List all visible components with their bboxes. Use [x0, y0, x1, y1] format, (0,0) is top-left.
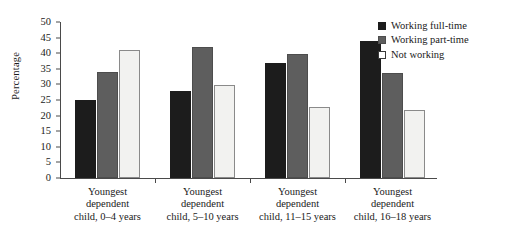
x-axis-label: Youngestdependentchild, 0–4 years	[53, 186, 162, 223]
x-axis-label: Youngestdependentchild, 5–10 years	[148, 186, 257, 223]
x-axis-label-line: dependent	[338, 198, 447, 210]
y-tick-label: 5	[0, 157, 51, 168]
x-axis-label-line: child, 5–10 years	[148, 211, 257, 223]
y-tick-label: 50	[0, 17, 51, 28]
legend-label: Not working	[391, 50, 444, 61]
legend-swatch-icon	[378, 36, 386, 44]
bar	[192, 47, 214, 178]
x-axis-label-line: child, 16–18 years	[338, 211, 447, 223]
legend-item[interactable]: Working full-time	[378, 19, 469, 33]
x-axis-label-line: dependent	[243, 198, 352, 210]
x-axis-label-line: Youngest	[148, 186, 257, 198]
bar	[119, 50, 141, 178]
bar	[170, 91, 192, 178]
x-axis-label-line: child, 11–15 years	[243, 211, 352, 223]
bar-group	[60, 22, 155, 178]
bar	[309, 107, 331, 178]
x-axis-label: Youngestdependentchild, 16–18 years	[338, 186, 447, 223]
bar	[404, 110, 426, 178]
legend-label: Working part-time	[391, 35, 469, 46]
legend-item[interactable]: Working part-time	[378, 34, 469, 48]
x-axis-line	[60, 178, 437, 179]
y-tick-label: 40	[0, 48, 51, 59]
bar-group	[155, 22, 250, 178]
x-axis-label-line: dependent	[148, 198, 257, 210]
y-tick-label: 15	[0, 126, 51, 137]
legend-item[interactable]: Not working	[378, 48, 469, 62]
x-axis-label-line: Youngest	[53, 186, 162, 198]
y-tick-label: 10	[0, 142, 51, 153]
bar	[287, 54, 309, 178]
legend-label: Working full-time	[391, 21, 467, 32]
y-tick-label: 45	[0, 32, 51, 43]
x-axis-label-line: dependent	[53, 198, 162, 210]
bar	[214, 85, 236, 178]
x-axis-label-line: Youngest	[338, 186, 447, 198]
x-axis-label: Youngestdependentchild, 11–15 years	[243, 186, 352, 223]
y-axis-title: Percentage	[10, 52, 21, 100]
x-axis-label-line: Youngest	[243, 186, 352, 198]
x-tick-mark	[345, 179, 346, 183]
y-tick-label: 0	[0, 173, 51, 184]
y-tick-label: 20	[0, 110, 51, 121]
x-axis-label-line: child, 0–4 years	[53, 211, 162, 223]
x-tick-mark	[250, 179, 251, 183]
y-tick-label: 30	[0, 79, 51, 90]
y-tick-label: 35	[0, 64, 51, 75]
bar	[97, 72, 119, 178]
bar	[75, 100, 97, 178]
x-tick-mark	[155, 179, 156, 183]
chart-legend: Working full-timeWorking part-timeNot wo…	[378, 19, 469, 63]
bar-group	[250, 22, 345, 178]
legend-swatch-icon	[378, 22, 386, 30]
legend-swatch-icon	[378, 51, 386, 59]
y-tick-label: 25	[0, 95, 51, 106]
grouped-bar-chart: Percentage 05101520253035404550 Youngest…	[0, 0, 511, 233]
bar	[382, 73, 404, 178]
bar	[265, 63, 287, 178]
